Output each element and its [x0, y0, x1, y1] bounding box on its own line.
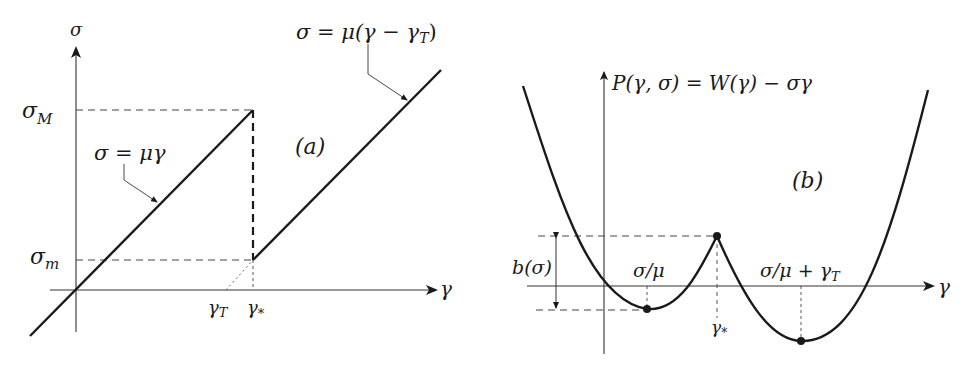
panel-a-tag: (a) — [295, 134, 325, 159]
branch-1-pointer — [124, 164, 157, 202]
min2-point — [797, 337, 805, 345]
figure: σ γ σM σm γT γ* σ = μγ σ = μ(γ − γT) (a)… — [0, 0, 968, 371]
panel-b: P(γ, σ) = W(γ) − σγ γ b(σ) σ/μ σ/μ + γT … — [512, 71, 950, 354]
min1-point — [643, 305, 651, 313]
panel-a-sigma-axis-label: σ — [70, 19, 83, 40]
branch-2-line — [253, 70, 441, 260]
branch-2-pointer — [368, 44, 407, 100]
tick-gamma-T: γT — [208, 297, 229, 320]
panel-b-gamma-axis-label: γ — [938, 275, 950, 299]
min2-label: σ/μ + γT — [760, 259, 841, 284]
panel-a-gamma-axis-label: γ — [440, 277, 452, 301]
panel-b-energy-axis-label: P(γ, σ) = W(γ) − σγ — [611, 71, 812, 95]
cusp-point — [713, 232, 721, 240]
energy-curve-right-well — [717, 90, 928, 341]
branch-2-label: σ = μ(γ − γT) — [296, 20, 437, 46]
branch-1-label: σ = μγ — [94, 141, 166, 165]
tick-sigma-M: σM — [22, 98, 53, 128]
cusp-label: γ* — [711, 317, 727, 340]
gamma-T-extension — [226, 260, 253, 290]
tick-gamma-star: γ* — [247, 297, 265, 321]
panel-b-tag: (b) — [792, 168, 823, 193]
tick-sigma-m: σm — [30, 244, 59, 273]
panel-a: σ γ σM σm γT γ* σ = μγ σ = μ(γ − γT) (a) — [22, 19, 452, 336]
energy-curve-left-well — [523, 86, 717, 309]
min1-label: σ/μ — [633, 259, 665, 281]
barrier-label: b(σ) — [512, 256, 552, 278]
